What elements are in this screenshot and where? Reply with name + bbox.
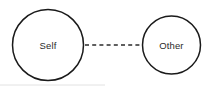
other-label: Other bbox=[159, 40, 183, 51]
node-self[interactable]: Self bbox=[13, 10, 84, 81]
diagram-svg: Self Other bbox=[0, 0, 211, 88]
node-other[interactable]: Other bbox=[143, 16, 201, 74]
diagram-canvas: Self Other bbox=[0, 0, 211, 88]
self-label: Self bbox=[40, 40, 57, 51]
